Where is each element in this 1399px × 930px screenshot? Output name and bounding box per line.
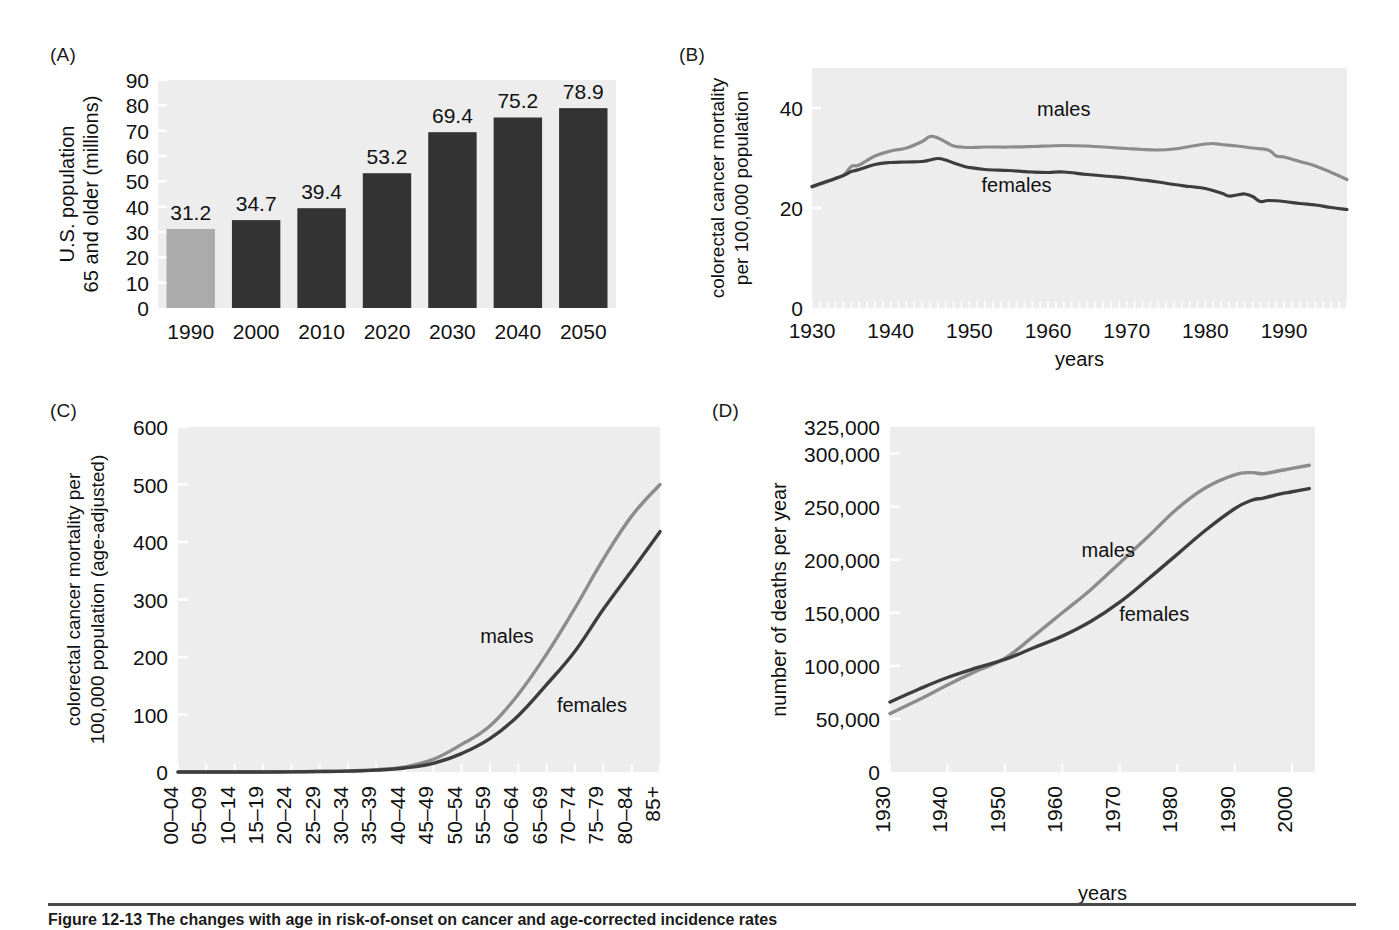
panel-c-x-tick-label: 20–24 bbox=[272, 786, 295, 845]
panel-c-y-axis-title: colorectal cancer mortality per100,000 p… bbox=[63, 455, 108, 744]
panel-a-y-tick-label: 30 bbox=[126, 221, 149, 244]
panel-d-x-tick-label: 1990 bbox=[1216, 786, 1239, 833]
panel-c-x-tick-label: 55–59 bbox=[471, 786, 494, 844]
svg-text:100,000 population (age-adjust: 100,000 population (age-adjusted) bbox=[87, 455, 108, 744]
panel-c-y-tick-label: 400 bbox=[133, 531, 168, 554]
panel-c-y-tick-label: 0 bbox=[156, 761, 168, 784]
panel-a-y-tick-label: 10 bbox=[126, 272, 149, 295]
panel-d-x-tick-label: 2000 bbox=[1273, 786, 1296, 833]
panel-c-series-label: males bbox=[480, 625, 533, 647]
panel-d-x-tick-label: 1940 bbox=[928, 786, 951, 833]
panel-a-y-tick-label: 0 bbox=[137, 297, 149, 320]
panel-a-y-tick-label: 40 bbox=[126, 196, 149, 219]
panel-a-x-tick-label: 2030 bbox=[429, 320, 476, 343]
figure-caption: Figure 12-13 The changes with age in ris… bbox=[48, 910, 1356, 930]
panel-b: (B) colorectal cancer mortalityper 100,0… bbox=[660, 0, 1399, 380]
panel-a-y-tick-label: 70 bbox=[126, 120, 149, 143]
panel-d-x-ticks: 19301940195019601970198019902000 bbox=[871, 764, 1296, 833]
svg-text:U.S. population: U.S. population bbox=[56, 126, 78, 263]
panel-d-chart: number of deaths per year050,000100,0001… bbox=[700, 385, 1399, 900]
panel-a-bar bbox=[363, 173, 411, 308]
panel-c-x-tick-label: 30–34 bbox=[329, 786, 352, 845]
panel-a-y-axis-title: U.S. population65 and older (millions) bbox=[56, 96, 102, 293]
panel-c-x-tick-label: 00–04 bbox=[159, 786, 182, 845]
panel-a-x-tick-label: 2020 bbox=[364, 320, 411, 343]
panel-c-chart: colorectal cancer mortality per100,000 p… bbox=[0, 385, 700, 900]
panel-d-series-label: females bbox=[1119, 603, 1189, 625]
panel-b-series-label: females bbox=[982, 174, 1052, 196]
panel-d-y-tick-label: 0 bbox=[868, 761, 880, 784]
panel-d-x-tick-label: 1980 bbox=[1158, 786, 1181, 833]
panel-d-y-axis-title: number of deaths per year bbox=[768, 482, 790, 717]
panel-d-series-label: males bbox=[1082, 539, 1135, 561]
panel-b-y-tick-label: 0 bbox=[791, 297, 803, 320]
panel-a: (A) U.S. population65 and older (million… bbox=[0, 0, 660, 370]
svg-text:colorectal cancer mortality pe: colorectal cancer mortality per bbox=[63, 472, 84, 726]
panel-c: (C) colorectal cancer mortality per100,0… bbox=[0, 385, 700, 900]
panel-c-x-tick-label: 80–84 bbox=[613, 786, 636, 845]
panel-b-series-label: males bbox=[1037, 98, 1090, 120]
panel-d-x-tick-label: 1950 bbox=[986, 786, 1009, 833]
panel-a-x-tick-label: 2000 bbox=[233, 320, 280, 343]
panel-c-x-tick-label: 85+ bbox=[641, 786, 664, 822]
panel-a-bar bbox=[167, 229, 215, 308]
panel-a-chart: U.S. population65 and older (millions)01… bbox=[0, 0, 660, 370]
panel-c-plot-background bbox=[178, 427, 660, 772]
panel-d-y-tick-label: 325,000 bbox=[804, 416, 880, 439]
panel-a-bar-value-label: 53.2 bbox=[367, 145, 408, 168]
panel-a-x-tick-label: 2050 bbox=[560, 320, 607, 343]
panel-d-x-axis-title: years bbox=[1078, 882, 1127, 904]
panel-b-x-tick-label: 1940 bbox=[867, 319, 914, 342]
svg-text:65 and older (millions): 65 and older (millions) bbox=[80, 96, 102, 293]
panel-d-y-tick-label: 150,000 bbox=[804, 602, 880, 625]
panel-a-x-tick-label: 2010 bbox=[298, 320, 345, 343]
panel-b-y-axis-title: colorectal cancer mortalityper 100,000 p… bbox=[707, 77, 752, 298]
panel-c-x-tick-label: 45–49 bbox=[414, 786, 437, 844]
panel-a-y-tick-label: 60 bbox=[126, 145, 149, 168]
panel-d-y-tick-label: 250,000 bbox=[804, 496, 880, 519]
panel-b-x-tick-label: 1930 bbox=[789, 319, 836, 342]
panel-c-y-tick-label: 300 bbox=[133, 589, 168, 612]
panel-b-y-tick-label: 20 bbox=[780, 197, 803, 220]
panel-d-y-tick-label: 100,000 bbox=[804, 655, 880, 678]
panel-c-y-tick-label: 100 bbox=[133, 704, 168, 727]
panel-a-x-tick-label: 1990 bbox=[167, 320, 214, 343]
panel-a-bar-value-label: 75.2 bbox=[497, 89, 538, 112]
panel-c-y-tick-label: 600 bbox=[133, 416, 168, 439]
panel-d-y-tick-label: 50,000 bbox=[816, 708, 880, 731]
panel-a-bar bbox=[494, 117, 542, 308]
panel-a-bar-value-label: 34.7 bbox=[236, 192, 277, 215]
panel-a-bar-value-label: 39.4 bbox=[301, 180, 342, 203]
panel-c-x-tick-label: 70–74 bbox=[556, 786, 579, 845]
svg-text:colorectal cancer mortality: colorectal cancer mortality bbox=[707, 77, 728, 298]
panel-c-x-tick-label: 15–19 bbox=[244, 786, 267, 844]
panel-c-x-tick-label: 25–29 bbox=[301, 786, 324, 844]
panel-d-x-tick-label: 1960 bbox=[1043, 786, 1066, 833]
panel-b-x-tick-label: 1990 bbox=[1261, 319, 1308, 342]
panel-d-label: (D) bbox=[712, 400, 739, 422]
panel-c-x-tick-label: 05–09 bbox=[187, 786, 210, 844]
panel-d-plot-background bbox=[890, 427, 1315, 772]
panel-c-x-tick-label: 40–44 bbox=[386, 786, 409, 845]
panel-a-bar-value-label: 69.4 bbox=[432, 104, 473, 127]
panel-c-x-tick-label: 75–79 bbox=[584, 786, 607, 844]
panel-b-x-tick-label: 1970 bbox=[1103, 319, 1150, 342]
panel-a-bar bbox=[428, 132, 476, 308]
panel-d-y-tick-label: 200,000 bbox=[804, 549, 880, 572]
panel-a-label: (A) bbox=[50, 44, 76, 66]
panel-a-y-tick-label: 50 bbox=[126, 170, 149, 193]
panel-d-x-tick-label: 1930 bbox=[871, 786, 894, 833]
panel-c-x-tick-label: 35–39 bbox=[357, 786, 380, 844]
panel-c-series-label: females bbox=[557, 694, 627, 716]
panel-b-x-axis-title: years bbox=[1055, 348, 1104, 370]
panel-c-label: (C) bbox=[50, 400, 77, 422]
panel-a-y-tick-label: 20 bbox=[126, 246, 149, 269]
panel-a-bar bbox=[559, 108, 607, 308]
panel-a-x-tick-label: 2040 bbox=[494, 320, 541, 343]
panel-a-bar bbox=[232, 220, 280, 308]
panel-a-bar-value-label: 78.9 bbox=[563, 80, 604, 103]
panel-b-x-tick-label: 1950 bbox=[946, 319, 993, 342]
panel-d-y-tick-label: 300,000 bbox=[804, 443, 880, 466]
panel-c-y-tick-label: 500 bbox=[133, 474, 168, 497]
